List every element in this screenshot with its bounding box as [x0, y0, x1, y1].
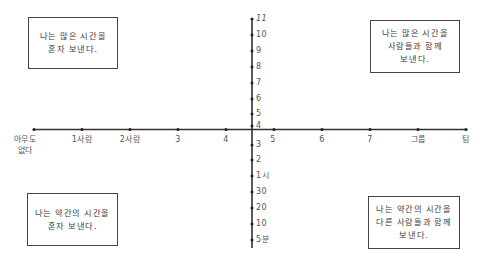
quadrant-bottom-right-box: 나는 약간의 시간을 다른 사람들과 함께 보낸다.: [368, 196, 460, 249]
y-axis-tick: [251, 82, 254, 85]
x-axis-tick-label: 팀: [462, 134, 470, 145]
y-axis-tick-label: 30: [256, 187, 267, 196]
x-axis-tick-label: 6: [319, 134, 325, 145]
y-axis-tick-label: 9: [256, 46, 262, 55]
x-axis-tick: [32, 128, 35, 131]
x-axis-tick-label: 아무도 없다: [14, 134, 37, 156]
y-axis-tick-label: 5분: [256, 235, 269, 244]
y-axis-tick: [251, 223, 254, 226]
x-axis-tick-label: 1사람: [72, 134, 93, 145]
x-axis-tick: [464, 128, 467, 131]
y-axis-tick: [251, 18, 254, 21]
x-axis-tick: [80, 128, 83, 131]
quadrant-top-right-text: 나는 많은 시간을 사람들과 함께 보낸다.: [382, 27, 449, 66]
y-axis-tick: [251, 159, 254, 162]
quadrant-top-left-box: 나는 많은 시간을 혼자 보낸다.: [28, 17, 118, 69]
y-axis-tick-label: 7: [256, 78, 262, 87]
x-axis-tick-label: 2사람: [120, 134, 141, 145]
y-axis-tick-label: 10: [256, 219, 267, 228]
y-axis-tick: [251, 66, 254, 69]
y-axis-tick-label: 6: [256, 94, 262, 103]
y-axis-tick-label: 1시: [256, 171, 269, 180]
y-axis-tick-label: 11: [256, 14, 267, 23]
quadrant-top-left-text: 나는 많은 시간을 혼자 보낸다.: [40, 30, 107, 56]
y-axis-tick: [251, 239, 254, 242]
x-axis-tick: [272, 128, 275, 131]
x-axis-tick-label: 7: [367, 134, 373, 145]
quadrant-bottom-left-text: 나는 약간의 시간을 혼자 보낸다.: [35, 207, 110, 233]
y-axis-tick: [251, 34, 254, 37]
y-axis-tick-label: 8: [256, 62, 262, 71]
y-axis-tick-label: 5: [256, 109, 262, 118]
quadrant-bottom-left-box: 나는 약간의 시간을 혼자 보낸다.: [27, 193, 118, 246]
y-axis-tick-label: 10: [256, 30, 267, 39]
quadrant-top-right-box: 나는 많은 시간을 사람들과 함께 보낸다.: [370, 20, 460, 73]
y-axis-tick-label: 2: [256, 155, 262, 164]
x-axis-tick: [368, 128, 371, 131]
x-axis-tick: [224, 128, 227, 131]
y-axis-tick: [251, 175, 254, 178]
y-axis-tick: [251, 50, 254, 53]
x-axis-tick: [176, 128, 179, 131]
y-axis-tick: [251, 125, 254, 128]
y-axis-tick-label: 4: [256, 121, 262, 130]
x-axis-tick: [128, 128, 131, 131]
x-axis-tick: [320, 128, 323, 131]
y-axis-tick: [251, 144, 254, 147]
y-axis-tick: [251, 207, 254, 210]
x-axis-tick-label: 4: [223, 134, 229, 145]
y-axis-tick: [251, 98, 254, 101]
x-axis-tick-label: 3: [175, 134, 181, 145]
x-axis-tick-label: 그룹: [411, 134, 426, 145]
quadrant-bottom-right-text: 나는 약간의 시간을 다른 사람들과 함께 보낸다.: [376, 203, 451, 242]
y-axis-tick: [251, 191, 254, 194]
x-axis-tick: [416, 128, 419, 131]
y-axis-tick-label: 20: [256, 203, 267, 212]
y-axis-tick: [251, 113, 254, 116]
x-axis-tick-label: 5: [270, 134, 276, 145]
y-axis-tick-label: 3: [256, 140, 262, 149]
